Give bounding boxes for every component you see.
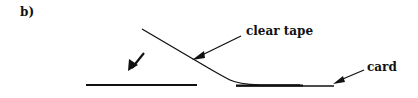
tape-pointer-line [198,36,241,57]
card-arrowhead-icon [333,76,345,84]
clear-tape-curve [142,29,300,85]
tape-arrowhead-icon [192,51,205,60]
diagram-canvas [0,0,418,98]
